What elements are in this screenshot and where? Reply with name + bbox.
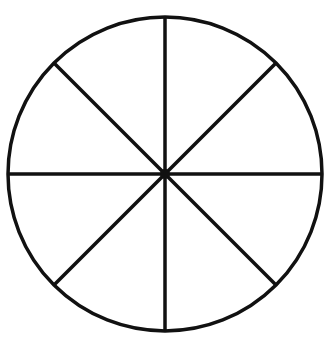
spoke-line — [165, 63, 276, 174]
spoke-line — [165, 174, 276, 285]
spoke-line — [54, 174, 165, 285]
divided-circle-diagram — [0, 0, 333, 341]
spoke-line — [54, 63, 165, 174]
center-dot — [160, 169, 170, 179]
